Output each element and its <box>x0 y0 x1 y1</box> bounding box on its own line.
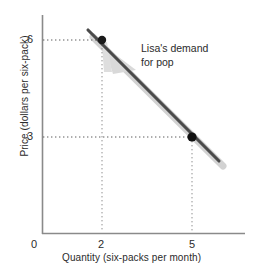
data-point-2-6 <box>98 36 106 44</box>
x-tick-label-5: 5 <box>189 239 195 250</box>
curve-annotation: Lisa's demand for pop <box>141 41 208 69</box>
chart-canvas <box>0 0 258 268</box>
y-axis-title-wrapper: Price (dollars per six-pack) <box>19 21 33 171</box>
x-axis-title: Quantity (six-packs per month) <box>62 252 201 263</box>
x-tick-label-2: 2 <box>98 239 104 250</box>
x-tick-label-0: 0 <box>31 239 37 250</box>
demand-curve-figure: 6 3 0 2 5 Quantity (six-packs per month)… <box>0 0 258 268</box>
curve-annotation-line2: for pop <box>141 55 208 69</box>
y-axis-title: Price (dollars per six-pack) <box>19 21 30 171</box>
data-point-5-3 <box>187 132 196 141</box>
curve-annotation-line1: Lisa's demand <box>141 41 208 55</box>
